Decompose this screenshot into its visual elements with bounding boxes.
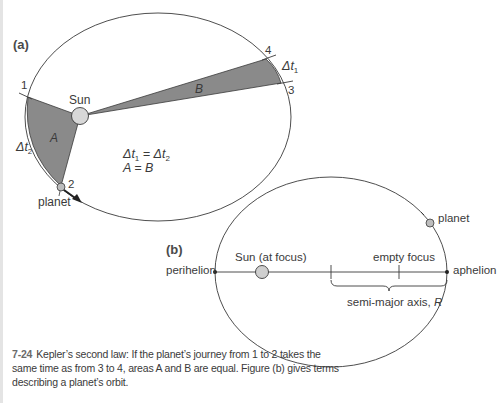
planet-b-label: planet: [438, 212, 470, 224]
panel-b: (b) perihelion aphelion Sun (at focus) e…: [166, 177, 496, 367]
empty-focus-label: empty focus: [373, 251, 435, 263]
semi-major-axis-label: semi-major axis, R: [347, 296, 442, 308]
point-1-label: 1: [21, 79, 27, 91]
panel-b-label: (b): [166, 242, 183, 257]
sun-label: Sun: [69, 93, 90, 107]
area-a-label: A: [49, 131, 58, 145]
planet-label: planet: [38, 195, 71, 209]
aphelion-label: aphelion: [453, 264, 496, 276]
sun-at-focus-icon: [256, 266, 269, 279]
velocity-arrow-head: [72, 194, 82, 203]
point-4-label: 4: [265, 44, 272, 56]
point-2-label: 2: [68, 178, 74, 190]
perihelion-label: perihelion: [166, 264, 216, 276]
delta-t2-label: Δt2: [15, 140, 33, 156]
kepler-diagram: (a) Sun 1 2 3 4 A B Δt2 Δt1 Δt1 = Δt2 A …: [0, 0, 503, 403]
sun-at-focus-label: Sun (at focus): [235, 251, 307, 263]
planet-icon: [57, 183, 65, 191]
area-b-label: B: [195, 82, 203, 96]
planet-b-direction-mark: [421, 212, 424, 215]
area-b-sector: [80, 59, 281, 116]
caption-text: Kepler’s second law: If the planet’s jou…: [12, 348, 339, 388]
panel-a-label: (a): [13, 37, 29, 52]
planet-b-icon: [426, 219, 434, 227]
equation-area-equal: A = B: [122, 161, 153, 175]
point-3-label: 3: [288, 84, 294, 96]
delta-t1-label: Δt1: [281, 59, 299, 75]
sun-icon: [72, 108, 89, 125]
figure-caption: 7-24Kepler’s second law: If the planet’s…: [12, 347, 342, 389]
semi-major-axis-brace: [331, 280, 447, 291]
panel-a: (a) Sun 1 2 3 4 A B Δt2 Δt1 Δt1 = Δt2 A …: [13, 13, 299, 221]
aphelion-dot: [445, 270, 449, 274]
figure-number: 7-24: [12, 348, 32, 360]
tick-point-1: [19, 93, 32, 99]
